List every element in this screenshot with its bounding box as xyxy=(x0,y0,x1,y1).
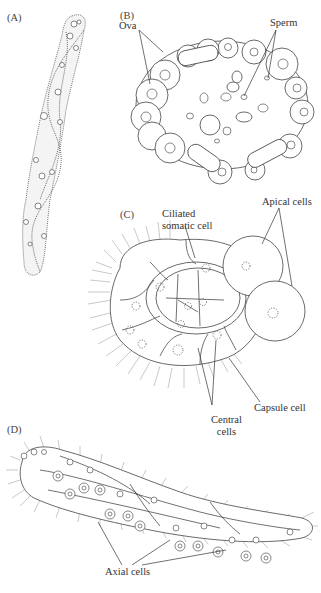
annotation-central-line2: cells xyxy=(211,426,242,438)
annotation-ciliated-somatic-cell: Ciliated somatic cell xyxy=(162,208,212,232)
annotation-central-cells: Central cells xyxy=(211,414,242,438)
annotation-ova: Ova xyxy=(119,20,137,32)
annotation-apical-cells: Apical cells xyxy=(262,196,312,208)
annotation-central-line1: Central xyxy=(211,414,242,426)
figure-canvas xyxy=(0,0,321,593)
panel-a-label: (A) xyxy=(7,12,22,23)
panel-d-label: (D) xyxy=(7,424,22,435)
annotation-ciliated-line1: Ciliated xyxy=(162,208,212,220)
panel-b-colony xyxy=(131,30,314,184)
annotation-axial-cells: Axial cells xyxy=(105,566,150,578)
panel-c-label: (C) xyxy=(120,209,134,220)
panel-d-organism xyxy=(6,436,318,565)
annotation-ciliated-line2: somatic cell xyxy=(162,220,212,232)
panel-c-colony xyxy=(88,208,305,405)
panel-a-organism xyxy=(23,15,86,275)
annotation-capsule-cell: Capsule cell xyxy=(254,402,306,414)
annotation-sperm: Sperm xyxy=(270,17,297,29)
